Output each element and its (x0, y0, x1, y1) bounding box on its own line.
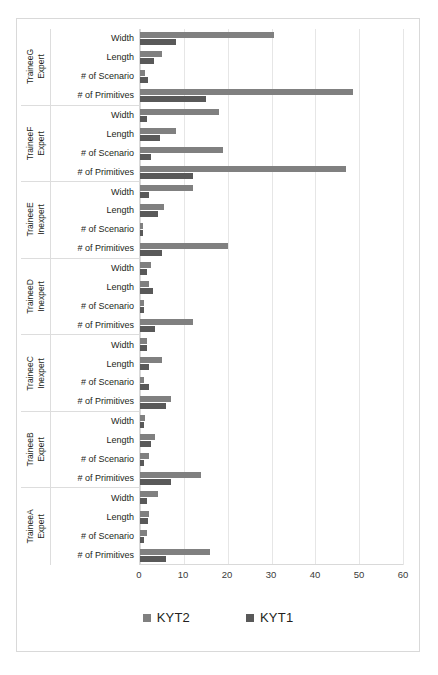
group-trainee-name: TraineeC (25, 356, 36, 391)
bar-kyt1 (140, 58, 154, 64)
bar-row (140, 144, 403, 163)
bar-row (140, 508, 403, 527)
bar-kyt2 (140, 281, 149, 287)
bar-row (140, 106, 403, 125)
legend-swatch-icon (246, 614, 254, 622)
bar-row (140, 393, 403, 412)
bar-kyt1 (140, 116, 147, 122)
category-label: Width (51, 106, 139, 125)
category-label: Width (51, 488, 139, 507)
bar-row (140, 527, 403, 546)
group-label-traineeb: TraineeBExpert (21, 412, 51, 488)
legend-swatch-icon (143, 614, 151, 622)
bar-group-traineec (140, 335, 403, 412)
bar-kyt1 (140, 537, 144, 543)
x-tick-label: 20 (222, 569, 233, 580)
category-label: # of Primitives (51, 315, 139, 334)
category-group-traineeb: TraineeBExpertWidthLength# of Scenario# … (21, 412, 139, 489)
bar-kyt1 (140, 154, 151, 160)
bar-kyt2 (140, 434, 155, 440)
gridline-60 (403, 29, 404, 565)
legend-label: KYT2 (157, 610, 190, 625)
group-expertise-level: Expert (36, 49, 47, 84)
bar-kyt1 (140, 39, 176, 45)
bar-kyt2 (140, 243, 228, 249)
chart-plot-wrapper: TraineeGExpertWidthLength# of Scenario# … (17, 19, 419, 651)
group-expertise-level: Inexpert (36, 356, 47, 391)
bar-row (140, 163, 403, 182)
category-group-traineec: TraineeCInexpertWidthLength# of Scenario… (21, 335, 139, 412)
category-label: # of Scenario (51, 373, 139, 392)
category-label-list: WidthLength# of Scenario# of Primitives (51, 106, 139, 182)
bar-row (140, 412, 403, 431)
bar-kyt1 (140, 211, 158, 217)
bar-kyt1 (140, 384, 149, 390)
category-label: Length (51, 354, 139, 373)
bar-row (140, 67, 403, 86)
category-label: # of Primitives (51, 546, 139, 565)
bar-kyt1 (140, 403, 166, 409)
category-label: Length (51, 48, 139, 67)
bar-row (140, 29, 403, 48)
bar-group-traineee (140, 182, 403, 259)
bar-group-traineeg (140, 29, 403, 106)
bar-row (140, 259, 403, 278)
legend-item-kyt2[interactable]: KYT2 (143, 610, 190, 625)
bar-kyt1 (140, 307, 144, 313)
group-label-traineee: TraineeEInexpert (21, 182, 51, 258)
group-trainee-name: TraineeF (25, 126, 36, 160)
bar-kyt2 (140, 491, 158, 497)
bar-group-traineeb (140, 412, 403, 489)
bar-kyt1 (140, 441, 151, 447)
bar-kyt2 (140, 549, 210, 555)
category-label-list: WidthLength# of Scenario# of Primitives (51, 412, 139, 488)
group-expertise-level: Expert (36, 126, 47, 160)
group-expertise-level: Expert (36, 510, 47, 544)
legend-item-kyt1[interactable]: KYT1 (246, 610, 293, 625)
category-label: Length (51, 201, 139, 220)
group-expertise-level: Inexpert (36, 279, 47, 314)
bar-kyt1 (140, 288, 153, 294)
bar-kyt1 (140, 269, 147, 275)
category-label-list: WidthLength# of Scenario# of Primitives (51, 488, 139, 565)
bar-row (140, 240, 403, 259)
x-tick-label: 60 (398, 569, 409, 580)
category-group-traineef: TraineeFExpertWidthLength# of Scenario# … (21, 106, 139, 183)
chart-frame: TraineeGExpertWidthLength# of Scenario# … (16, 18, 420, 652)
category-label-list: WidthLength# of Scenario# of Primitives (51, 259, 139, 335)
bar-row (140, 48, 403, 67)
category-label: # of Primitives (51, 86, 139, 105)
bar-kyt1 (140, 556, 166, 562)
bar-row (140, 546, 403, 565)
category-group-traineea: TraineeAExpertWidthLength# of Scenario# … (21, 488, 139, 565)
group-expertise-level: Inexpert (36, 203, 47, 237)
category-label: Length (51, 508, 139, 527)
category-label-list: WidthLength# of Scenario# of Primitives (51, 29, 139, 105)
category-label: Width (51, 335, 139, 354)
bar-kyt1 (140, 498, 147, 504)
bar-kyt2 (140, 204, 164, 210)
group-trainee-name: TraineeG (25, 49, 36, 84)
bar-group-traineed (140, 259, 403, 336)
bar-kyt1 (140, 135, 160, 141)
bar-kyt1 (140, 326, 155, 332)
bar-row (140, 431, 403, 450)
bar-kyt2 (140, 511, 149, 517)
chart-legend: KYT2KYT1 (17, 610, 419, 625)
bar-group-traineef (140, 106, 403, 183)
category-group-traineee: TraineeEInexpertWidthLength# of Scenario… (21, 182, 139, 259)
bar-kyt2 (140, 51, 162, 57)
bar-row (140, 220, 403, 239)
bar-kyt2 (140, 319, 193, 325)
category-label: Width (51, 259, 139, 278)
category-label: Length (51, 124, 139, 143)
group-trainee-name: TraineeE (25, 203, 36, 237)
category-label: # of Scenario (51, 220, 139, 239)
bar-kyt2 (140, 472, 201, 478)
bar-row (140, 86, 403, 105)
group-trainee-name: TraineeB (25, 433, 36, 467)
group-trainee-name: TraineeD (25, 279, 36, 314)
x-tick-label: 50 (354, 569, 365, 580)
bar-kyt2 (140, 89, 353, 95)
category-label: # of Primitives (51, 392, 139, 411)
